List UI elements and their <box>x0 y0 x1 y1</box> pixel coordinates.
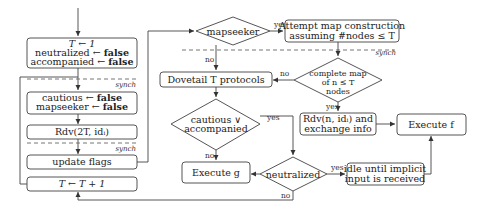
svg-text:input is received: input is received <box>345 173 425 184</box>
arrow-update-mapseeker <box>137 31 194 162</box>
svg-text:exchange info: exchange info <box>304 123 372 134</box>
mapseeker-no-label: no <box>205 55 215 64</box>
mapseeker-diamond: mapseeker <box>196 17 270 45</box>
svg-text:Execute f: Execute f <box>408 119 455 130</box>
init-box: T ← 1 neutralized ← false accompanied ← … <box>27 38 137 68</box>
neutralized-no-label: no <box>281 191 291 200</box>
svg-text:mapseeker: mapseeker <box>207 26 260 37</box>
svg-text:neutralized: neutralized <box>266 169 321 180</box>
execute-g-box: Execute g <box>182 162 250 183</box>
cautious-accompanied-diamond: cautious ∨ accompanied <box>171 99 260 150</box>
dovetail-box: Dovetail T protocols <box>160 72 272 87</box>
neutralized-diamond: neutralized <box>260 157 327 191</box>
complete-map-diamond: complete map of n ≤ T nodes <box>294 58 382 102</box>
attempt-map-box: Attempt map construction assuming #nodes… <box>278 20 405 42</box>
svg-text:T ← T + 1: T ← T + 1 <box>59 178 106 189</box>
svg-text:update flags: update flags <box>52 156 111 167</box>
complete-yes-label: yes <box>325 102 339 111</box>
update-flags-box: update flags <box>27 155 137 169</box>
svg-text:accompanied: accompanied <box>184 123 248 134</box>
svg-text:complete map: complete map <box>309 69 366 78</box>
svg-text:nodes: nodes <box>326 87 350 96</box>
arrow-neutralized-no <box>78 191 293 200</box>
synch-label-1: synch <box>116 81 136 89</box>
svg-text:assuming #nodes ≤ T: assuming #nodes ≤ T <box>289 30 395 41</box>
svg-text:of n ≤ T: of n ≤ T <box>322 78 355 87</box>
increment-t-box: T ← T + 1 <box>27 177 137 191</box>
svg-text:Rdv(2T, idᵢ): Rdv(2T, idᵢ) <box>55 126 109 137</box>
synch-label-2: synch <box>116 145 136 153</box>
svg-text:Execute g: Execute g <box>192 167 240 178</box>
complete-no-label: no <box>280 69 290 78</box>
neutralized-yes-label: yes <box>330 163 344 172</box>
reset-flags-box: cautious ← false mapseeker ← false <box>27 92 137 114</box>
rdv-exchange-box: Rdv(n, idᵢ) and exchange info <box>300 113 376 135</box>
execute-f-box: Execute f <box>397 114 466 135</box>
flowchart: T ← 1 neutralized ← false accompanied ← … <box>0 0 479 214</box>
cautious-no-label: no <box>205 151 215 160</box>
idle-box: idle until implicit input is received <box>344 163 427 185</box>
cautious-yes-label: yes <box>266 113 280 122</box>
svg-text:accompanied ← false: accompanied ← false <box>31 56 134 67</box>
rdv-box: Rdv(2T, idᵢ) <box>27 125 137 139</box>
svg-text:mapseeker ← false: mapseeker ← false <box>36 101 128 112</box>
svg-text:Dovetail T protocols: Dovetail T protocols <box>167 74 264 85</box>
synch-label-3: synch <box>376 49 396 57</box>
